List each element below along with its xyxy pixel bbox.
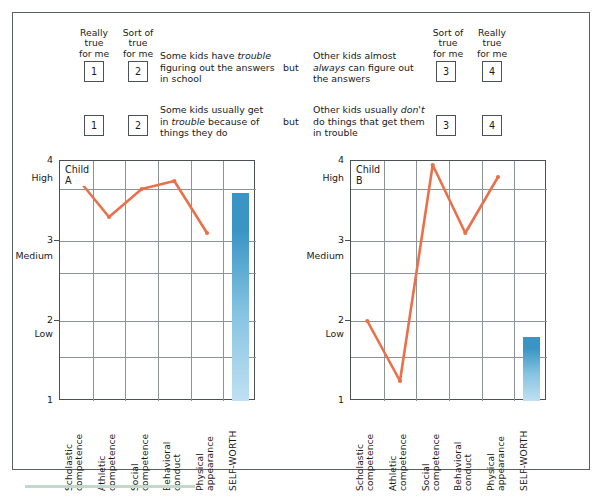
x-axis-label: Athletic competence <box>388 405 408 491</box>
x-axis-label: Behavioral conduct <box>453 405 473 491</box>
x-axis-label: Behavioral conduct <box>162 405 182 491</box>
item-2-left-statement: Some kids usually getin trouble because … <box>160 104 278 139</box>
response-box-1-item-1[interactable]: 1 <box>84 61 104 82</box>
data-point <box>431 163 435 167</box>
x-axis-label: Scholastic competence <box>64 405 84 491</box>
y-axis-band-label-high: High <box>7 173 53 183</box>
response-box-1-item-2[interactable]: 1 <box>84 115 104 136</box>
y-axis-tick-label: 1 <box>7 395 53 405</box>
data-point <box>107 215 111 219</box>
scale-header-really-true-right: Really true for me <box>472 28 512 59</box>
item-2-right-statement: Other kids usually don'tdo things that g… <box>313 104 431 139</box>
y-axis-band-label-low: Low <box>7 329 53 339</box>
series-line-child-b <box>351 161 547 401</box>
response-box-4-item-2[interactable]: 4 <box>482 115 502 136</box>
item-2-connector: but <box>283 116 299 128</box>
y-axis-band-label-high: High <box>298 173 344 183</box>
chart-title-child-a: Child A <box>63 164 91 186</box>
chart-title-child-b: Child B <box>354 164 382 186</box>
y-axis-tick-label: 4 <box>7 155 53 165</box>
y-axis-tick-label: 4 <box>298 155 344 165</box>
data-point <box>172 179 176 183</box>
bottom-rule <box>25 485 195 488</box>
y-axis-tick-label: 3 <box>298 235 344 245</box>
data-point <box>205 231 209 235</box>
response-box-2-item-2[interactable]: 2 <box>128 115 148 136</box>
x-axis-label: Physical appearance <box>486 405 506 491</box>
x-axis-label: Social competence <box>130 405 150 491</box>
y-axis-tick-mark <box>345 320 350 321</box>
y-axis-tick-mark <box>54 240 59 241</box>
scale-header-sort-of-true-right: Sort of true for me <box>426 28 470 59</box>
y-axis-tick-mark <box>54 320 59 321</box>
data-point <box>463 231 467 235</box>
y-axis-tick-mark <box>345 240 350 241</box>
x-axis-label: Physical appearance <box>195 405 215 491</box>
x-axis-label: SELF-WORTH <box>228 405 238 491</box>
y-axis-band-label-low: Low <box>298 329 344 339</box>
item-1-right-statement: Other kids almostalways can figure outth… <box>313 50 425 85</box>
y-axis-band-label-medium: Medium <box>298 251 344 261</box>
data-point <box>140 187 144 191</box>
data-point <box>496 175 500 179</box>
item-1-left-statement: Some kids have troublefiguring out the a… <box>160 50 278 85</box>
scale-header-sort-of-true-left: Sort of true for me <box>116 28 160 59</box>
response-box-3-item-1[interactable]: 3 <box>436 61 456 82</box>
x-axis-label: Social competence <box>421 405 441 491</box>
scale-header-really-true-left: Really true for me <box>74 28 114 59</box>
x-axis-label: SELF-WORTH <box>519 405 529 491</box>
plot-area-child-b <box>350 160 546 400</box>
questionnaire-region: Really true for me Sort of true for me S… <box>12 12 590 150</box>
response-box-2-item-1[interactable]: 2 <box>128 61 148 82</box>
plot-area-child-a <box>59 160 255 400</box>
data-point <box>365 319 369 323</box>
y-axis-tick-label: 1 <box>298 395 344 405</box>
x-axis-label: Athletic competence <box>97 405 117 491</box>
figure-root: Really true for me Sort of true for me S… <box>0 0 606 496</box>
y-axis-tick-label: 2 <box>7 315 53 325</box>
item-1-connector: but <box>283 62 299 74</box>
y-axis-tick-label: 2 <box>298 315 344 325</box>
data-point <box>398 379 402 383</box>
y-axis-tick-label: 3 <box>7 235 53 245</box>
x-axis-label: Scholastic competence <box>355 405 375 491</box>
series-line-child-a <box>60 161 256 401</box>
y-axis-band-label-medium: Medium <box>7 251 53 261</box>
response-box-4-item-1[interactable]: 4 <box>482 61 502 82</box>
response-box-3-item-2[interactable]: 3 <box>436 115 456 136</box>
